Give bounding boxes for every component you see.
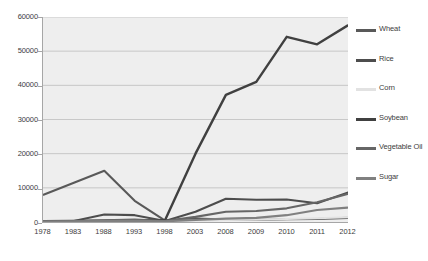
legend-item-rice[interactable]: Rice: [356, 54, 428, 74]
y-tick-mark: [38, 223, 42, 224]
y-tick-label: 50000: [0, 47, 38, 55]
y-tick-label: 20000: [0, 150, 38, 158]
legend-swatch: [356, 118, 376, 121]
legend-label: Soybean: [379, 113, 428, 123]
legend-label: Vegetable Oil: [379, 142, 428, 152]
y-tick-label: 0: [0, 219, 38, 227]
legend-item-corn[interactable]: Corn: [356, 83, 428, 103]
x-tick-label: 2012: [328, 227, 368, 236]
y-tick-label: 10000: [0, 184, 38, 192]
y-axis: 0100002000030000400005000060000: [0, 0, 38, 261]
y-tick-label: 30000: [0, 116, 38, 124]
x-axis: 1978198319881993199820032008200920102011…: [42, 227, 348, 245]
legend-swatch: [356, 147, 376, 150]
legend-swatch: [356, 59, 376, 62]
legend-label: Corn: [379, 83, 428, 93]
y-tick-label: 60000: [0, 13, 38, 21]
legend-swatch: [356, 88, 376, 91]
legend-label: Sugar: [379, 172, 428, 182]
line-chart: 0100002000030000400005000060000 19781983…: [0, 0, 428, 261]
legend-label: Wheat: [379, 24, 428, 34]
legend-item-soybean[interactable]: Soybean: [356, 113, 428, 133]
legend-item-wheat[interactable]: Wheat: [356, 24, 428, 44]
legend-swatch: [356, 29, 376, 32]
series-line-soybean: [43, 26, 347, 222]
legend-item-vegetable-oil[interactable]: Vegetable Oil: [356, 142, 428, 162]
y-tick-label: 40000: [0, 81, 38, 89]
legend-item-sugar[interactable]: Sugar: [356, 172, 428, 192]
plot-area: [42, 17, 348, 223]
legend-label: Rice: [379, 54, 428, 64]
series-lines: [43, 17, 348, 222]
legend-swatch: [356, 177, 376, 180]
